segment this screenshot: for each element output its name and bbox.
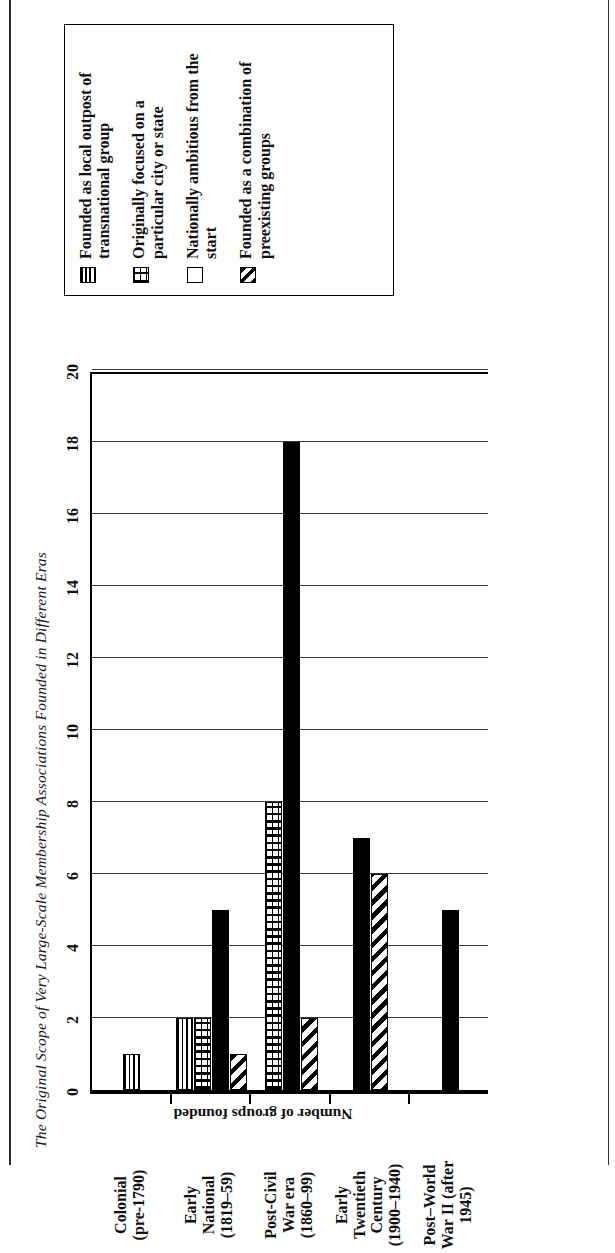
category-label: Post-CivilWar era(1860–99)	[262, 1110, 316, 1253]
bar	[175, 1018, 192, 1090]
category-label-line: Early	[332, 1110, 350, 1253]
bar	[123, 1054, 140, 1090]
bar	[300, 1018, 317, 1090]
y-tick-label: 8	[64, 800, 82, 808]
bar	[211, 910, 228, 1090]
category-label-line: War II (after	[439, 1110, 457, 1253]
category-label-line: (1900–1940)	[386, 1110, 404, 1253]
category-label-line: (pre-1790)	[129, 1110, 147, 1253]
legend-item-label: Founded as local outpost of transnationa…	[77, 35, 113, 259]
category-label: Post–WorldWar II (after1945)	[421, 1110, 475, 1253]
y-tick-label: 2	[64, 1016, 82, 1024]
bar	[371, 874, 388, 1090]
category-label: Colonial(pre-1790)	[111, 1110, 147, 1253]
category-label-line: Early	[182, 1110, 200, 1253]
page-rule-left	[9, 0, 11, 1165]
legend-item: Nationally ambitious from the start	[183, 35, 219, 283]
bar	[264, 802, 281, 1090]
category-label-line: Twentieth	[350, 1110, 368, 1253]
legend-item: Originally focused on a particular city …	[130, 35, 166, 283]
y-tick-label: 0	[64, 1088, 82, 1096]
category-label-line: Post–World	[421, 1110, 439, 1253]
category-label-line: Colonial	[111, 1110, 129, 1253]
bar	[353, 838, 370, 1090]
category-label-line: National	[200, 1110, 218, 1253]
legend-item-label: Founded as a combination of preexisting …	[237, 35, 273, 259]
page-rule-right	[608, 0, 610, 1165]
chart-plot-area: Number of groups founded 024681012141618…	[64, 320, 564, 1148]
y-tick-label: 12	[64, 652, 82, 668]
y-tick-label: 14	[64, 580, 82, 596]
chart-legend: Founded as local outpost of transnationa…	[64, 24, 394, 296]
bar	[229, 1054, 246, 1090]
figure-body: Number of groups founded 024681012141618…	[64, 18, 564, 1148]
legend-swatch-solid-black	[186, 267, 202, 283]
y-tick-label: 10	[64, 724, 82, 740]
category-label: EarlyNational(1819–59)	[182, 1110, 236, 1253]
category-tick	[408, 1093, 410, 1104]
y-axis-tick-labels: 02468101214161820	[64, 372, 90, 1092]
y-tick-label: 4	[64, 944, 82, 952]
gridline	[92, 369, 488, 370]
category-label-line: Century	[368, 1110, 386, 1253]
legend-item: Founded as local outpost of transnationa…	[77, 35, 113, 283]
category-tick	[169, 1093, 171, 1104]
legend-item: Founded as a combination of preexisting …	[237, 35, 273, 283]
legend-swatch-brick	[133, 267, 149, 283]
category-label-line: (1860–99)	[297, 1110, 315, 1253]
bar	[441, 910, 458, 1090]
y-tick-label: 16	[64, 508, 82, 524]
legend-swatch-diagonal-hatch	[240, 267, 256, 283]
category-label: EarlyTwentiethCentury(1900–1940)	[332, 1110, 404, 1253]
category-label-line: (1819–59)	[218, 1110, 236, 1253]
category-label-line: 1945)	[457, 1110, 475, 1253]
bar	[282, 442, 299, 1090]
legend-item-label: Originally focused on a particular city …	[130, 35, 166, 259]
category-axis-labels: Colonial(pre-1790)EarlyNational(1819–59)…	[90, 1102, 488, 1253]
legend-swatch-horizontal-lines	[80, 267, 96, 283]
legend-item-label: Nationally ambitious from the start	[183, 35, 219, 259]
y-tick-label: 18	[64, 436, 82, 452]
figure-title: The Original Scope of Very Large-Scale M…	[32, 18, 50, 1148]
rotated-figure-wrapper: The Original Scope of Very Large-Scale M…	[28, 18, 588, 1148]
chart-grid	[90, 372, 488, 1092]
y-tick-label: 6	[64, 872, 82, 880]
category-tick	[328, 1093, 330, 1104]
category-label-line: Post-Civil	[262, 1110, 280, 1253]
bar	[193, 1018, 210, 1090]
y-tick-label: 20	[64, 364, 82, 380]
category-tick	[249, 1093, 251, 1104]
category-label-line: War era	[279, 1110, 297, 1253]
